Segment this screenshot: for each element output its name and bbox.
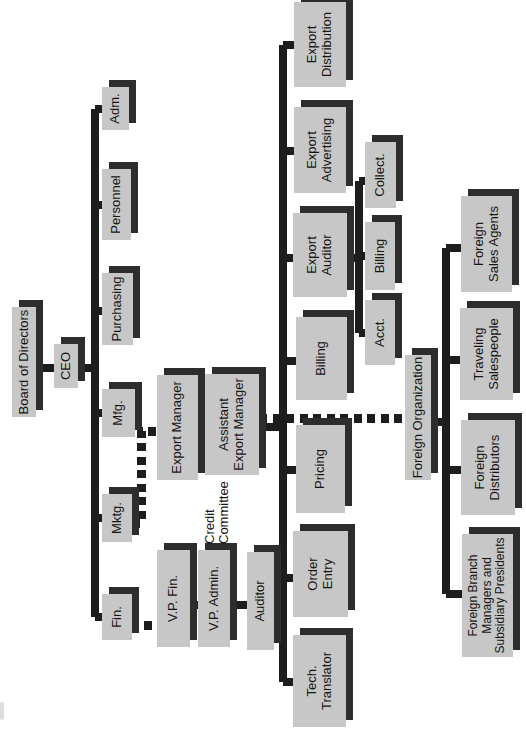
node-label: Distributors <box>488 435 503 501</box>
node-label: Mktg. <box>110 502 125 534</box>
node-billing-sub: Billing <box>365 222 395 290</box>
node-foreign-distributors: Foreign Distributors <box>461 420 515 515</box>
node-export-advertising: Export Advertising <box>294 107 346 193</box>
node-label: Auditor <box>253 580 268 621</box>
node-fin: Fin. <box>102 594 132 640</box>
node-label: Collect. <box>373 153 388 196</box>
node-label: Subsidiary Presidents <box>494 537 508 653</box>
node-label: Salespeople <box>487 318 502 390</box>
node-label: Foreign Organization <box>411 357 426 478</box>
scan-artifact <box>0 702 4 720</box>
node-foreign-branch-managers: Foreign Branch Managers and Subsidiary P… <box>462 534 513 657</box>
node-label: Pricing <box>313 449 328 489</box>
node-export-distribution: Export Distribution <box>294 2 346 87</box>
node-assistant-export-manager: Assistant Export Manager <box>205 374 259 475</box>
node-label: V.P. Fin. <box>166 575 181 622</box>
node-label: Distribution <box>320 12 335 77</box>
node-label: Acct. <box>373 318 388 347</box>
node-label: Order <box>306 557 321 590</box>
node-label: Export Manager <box>170 381 185 474</box>
node-vp-fin: V.P. Fin. <box>157 550 190 647</box>
node-label: CEO <box>59 352 74 380</box>
node-billing: Billing <box>296 317 347 400</box>
node-label: Auditor <box>320 234 335 275</box>
node-label: Foreign Branch <box>467 554 481 636</box>
node-label: Foreign <box>473 445 488 489</box>
node-foreign-organization: Foreign Organization <box>405 355 431 480</box>
node-foreign-sales-agents: Foreign Sales Agents <box>461 196 512 292</box>
node-order-entry: Order Entry <box>293 531 348 617</box>
node-label: Traveling <box>472 328 487 381</box>
node-label: Purchasing <box>110 276 125 341</box>
node-label: Advertising <box>320 118 335 182</box>
node-label: Entry <box>321 559 336 589</box>
node-label: Tech. <box>305 665 320 696</box>
node-traveling-salespeople: Traveling Salespeople <box>460 308 513 400</box>
node-pricing: Pricing <box>296 425 345 513</box>
node-ceo: CEO <box>54 344 78 388</box>
node-label: Export <box>305 131 320 169</box>
node-tech-translator: Tech. Translator <box>293 635 346 727</box>
node-personnel: Personnel <box>102 169 131 240</box>
node-label: Personnel <box>109 175 124 234</box>
node-export-manager: Export Manager <box>157 375 198 480</box>
node-label: Billing <box>373 239 388 274</box>
node-label: Export <box>305 26 320 64</box>
node-mktg: Mktg. <box>102 494 132 542</box>
node-acct: Acct. <box>365 300 395 365</box>
node-label: Foreign <box>472 222 487 266</box>
label-credit-committee: Credit Committee <box>203 481 230 544</box>
node-label: Export Manager <box>232 378 247 471</box>
node-label: Fin. <box>110 606 125 628</box>
node-board-of-directors: Board of Directors <box>12 307 36 417</box>
node-vp-admin: V.P. Admin. <box>198 550 230 647</box>
node-purchasing: Purchasing <box>102 273 133 345</box>
node-label: Mfg. <box>111 400 126 425</box>
node-label: Credit <box>203 481 217 544</box>
node-label: V.P. Admin. <box>207 566 222 631</box>
node-export-auditor: Export Auditor <box>293 213 347 297</box>
dashed-mktg-export-manager <box>132 431 159 523</box>
node-label: Managers and <box>481 557 495 634</box>
org-chart-figure: Board of Directors CEO Fin. Mktg. Mfg. P… <box>0 0 526 736</box>
node-mfg: Mfg. <box>102 389 135 437</box>
org-chart-rotated-canvas: Board of Directors CEO Fin. Mktg. Mfg. P… <box>0 0 526 736</box>
node-label: Translator <box>320 652 335 710</box>
node-label: Billing <box>314 341 329 376</box>
node-adm: Adm. <box>102 87 129 130</box>
node-collect: Collect. <box>365 142 396 208</box>
node-auditor: Auditor <box>247 552 274 650</box>
node-label: Adm. <box>108 93 123 123</box>
node-label: Assistant <box>217 398 232 451</box>
node-label: Board of Directors <box>17 310 32 415</box>
node-label: Committee <box>217 481 231 544</box>
node-label: Export <box>305 236 320 274</box>
node-label: Sales Agents <box>487 206 502 282</box>
